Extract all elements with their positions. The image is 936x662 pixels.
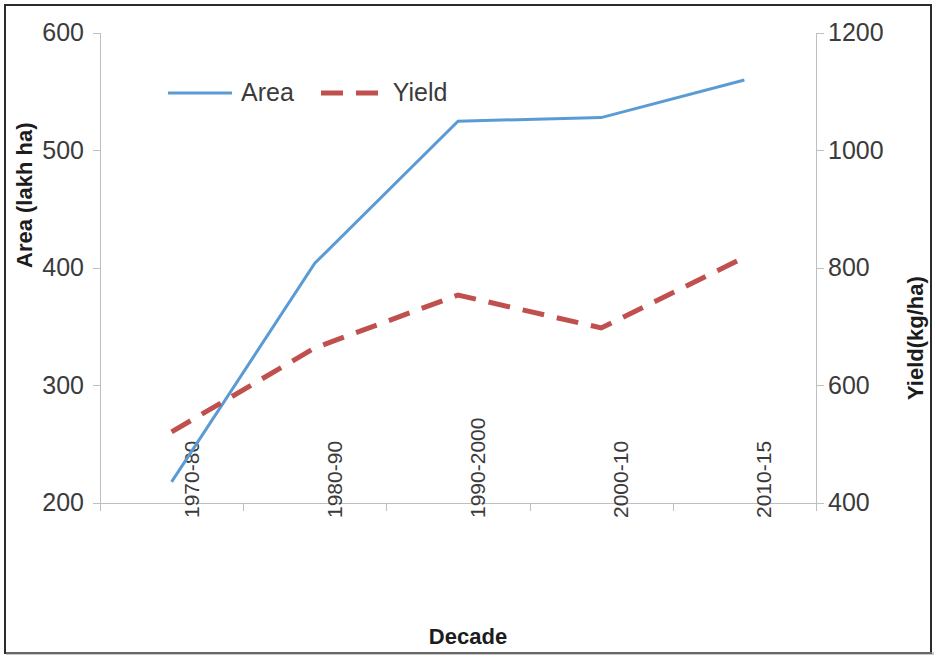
right-axis-tick-mark (817, 150, 824, 151)
left-axis-tick-mark (93, 503, 100, 504)
left-axis-tick-label: 600 (42, 20, 84, 45)
right-axis-tick-mark (817, 503, 824, 504)
left-axis-tick-label: 400 (42, 255, 84, 280)
x-axis-title: Decade (0, 624, 936, 650)
x-axis-tick-mark (673, 504, 674, 511)
legend-item-area: Area (168, 80, 294, 105)
left-axis-tick-mark (93, 385, 100, 386)
chart-figure: 200300400500600 40060080010001200 1970-8… (0, 0, 936, 662)
left-axis-title: Area (lakh ha) (12, 123, 38, 269)
right-axis-spine (816, 33, 817, 504)
left-axis-tick-mark (93, 268, 100, 269)
series-line-yield (172, 257, 745, 431)
right-axis-tick-label: 1000 (828, 138, 884, 163)
x-axis-tick-mark (816, 504, 817, 511)
left-axis-tick-mark (93, 150, 100, 151)
legend-label-yield: Yield (393, 80, 448, 105)
x-axis-tick-mark (100, 504, 101, 511)
right-axis-tick-mark (817, 33, 824, 34)
right-axis-tick-label: 1200 (828, 20, 884, 45)
figure-border-shadow (6, 652, 934, 655)
x-axis-tick-mark (530, 504, 531, 511)
right-axis-tick-label: 800 (828, 255, 870, 280)
legend-label-area: Area (241, 80, 294, 105)
right-axis-tick-label: 400 (828, 490, 870, 515)
left-axis-tick-label: 200 (42, 490, 84, 515)
left-axis-tick-label: 300 (42, 373, 84, 398)
chart-legend: Area Yield (168, 80, 447, 105)
bottom-axis-spine (100, 503, 817, 504)
right-axis-tick-mark (817, 385, 824, 386)
series-line-area (172, 80, 745, 482)
legend-swatch-area-solid-line (168, 86, 232, 100)
x-axis-tick-mark (243, 504, 244, 511)
x-axis-tick-mark (386, 504, 387, 511)
legend-swatch-yield-dashed-line (320, 86, 384, 100)
left-axis-tick-label: 500 (42, 138, 84, 163)
right-axis-tick-mark (817, 268, 824, 269)
right-axis-title: Yield(kg/ha) (903, 276, 929, 400)
right-axis-tick-label: 600 (828, 373, 870, 398)
left-axis-tick-mark (93, 33, 100, 34)
legend-item-yield: Yield (320, 80, 448, 105)
